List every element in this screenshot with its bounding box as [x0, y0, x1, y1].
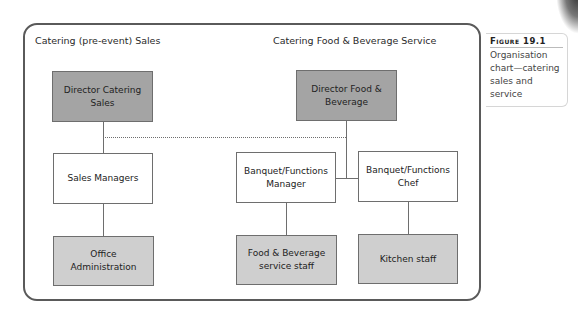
- node-label: Director Catering Sales: [57, 84, 148, 110]
- connector-director-fb-down: [346, 121, 347, 179]
- node-label: Director Food & Beverage: [301, 83, 392, 109]
- node-label: Banquet/Functions Chef: [363, 164, 453, 190]
- page-corner-shadow: [556, 0, 578, 34]
- node-label: Banquet/Functions Manager: [241, 165, 331, 191]
- section-title-fb-service: Catering Food & Beverage Service: [273, 35, 436, 46]
- node-banquet-functions-manager: Banquet/Functions Manager: [236, 152, 336, 203]
- figure-caption: Figure 19.1 Organisation chart—catering …: [486, 33, 568, 107]
- connector-director-sales-to-managers: [103, 122, 104, 153]
- node-label: Sales Managers: [68, 172, 139, 185]
- connector-managers-to-office: [103, 204, 104, 236]
- figure-label: Figure 19.1: [490, 36, 563, 48]
- node-label: Office Administration: [58, 248, 149, 274]
- connector-chef-to-kitchen: [408, 202, 409, 234]
- dotted-liaison-line: [105, 137, 346, 138]
- section-title-sales: Catering (pre-event) Sales: [35, 35, 160, 46]
- figure-description: Organisation chart—catering sales and se…: [490, 49, 563, 101]
- node-fb-service-staff: Food & Beverage service staff: [236, 235, 337, 285]
- node-sales-managers: Sales Managers: [53, 153, 153, 204]
- node-kitchen-staff: Kitchen staff: [358, 234, 458, 284]
- node-label: Food & Beverage service staff: [241, 247, 332, 273]
- node-director-food-beverage: Director Food & Beverage: [296, 70, 397, 121]
- connector-banquet-horizontal: [336, 178, 358, 179]
- connector-manager-to-service-staff: [286, 203, 287, 235]
- node-label: Kitchen staff: [380, 253, 437, 266]
- node-banquet-functions-chef: Banquet/Functions Chef: [358, 151, 458, 202]
- node-office-administration: Office Administration: [53, 236, 154, 286]
- node-director-catering-sales: Director Catering Sales: [52, 71, 153, 122]
